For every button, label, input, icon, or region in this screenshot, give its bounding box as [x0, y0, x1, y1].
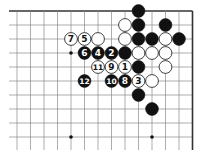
- black-stone-move-8: 8: [119, 75, 132, 88]
- move-number: 6: [81, 48, 87, 58]
- black-stone-move-6: 6: [78, 47, 91, 60]
- black-stone-move-10: 10: [105, 75, 118, 88]
- white-stone-move-5: 5: [78, 33, 91, 46]
- move-number: 7: [68, 34, 74, 44]
- go-board-diagram: 756421191121083: [0, 0, 198, 153]
- move-number: 12: [79, 77, 89, 86]
- black-stone: [132, 33, 145, 46]
- white-stone-move-9: 9: [105, 61, 118, 74]
- move-number: 1: [122, 62, 128, 72]
- move-number: 8: [122, 76, 128, 86]
- black-stone: [173, 33, 186, 46]
- white-stone: [159, 61, 172, 74]
- white-stone: [119, 33, 132, 46]
- black-stone-move-2: 2: [105, 47, 118, 60]
- black-stone-move-4: 4: [92, 47, 105, 60]
- black-stone-move-12: 12: [78, 75, 91, 88]
- white-stone: [159, 47, 172, 60]
- move-number: 2: [108, 48, 114, 58]
- black-stone: [159, 19, 172, 32]
- white-stone-move-7: 7: [65, 33, 78, 46]
- black-stone: [132, 89, 145, 102]
- move-number: 3: [135, 76, 141, 86]
- board-grid: [9, 11, 193, 150]
- star-point: [69, 51, 73, 55]
- white-stone: [146, 75, 159, 88]
- black-stone: [146, 33, 159, 46]
- move-number: 11: [93, 63, 103, 72]
- white-stone-move-1: 1: [119, 61, 132, 74]
- white-stone: [146, 47, 159, 60]
- white-stone: [119, 19, 132, 32]
- black-stone: [119, 47, 132, 60]
- white-stone: [92, 33, 105, 46]
- white-stone-move-11: 11: [92, 61, 105, 74]
- move-number: 5: [81, 34, 87, 44]
- star-point: [150, 135, 154, 139]
- black-stone: [132, 61, 145, 74]
- move-number: 4: [95, 48, 101, 58]
- black-stone: [132, 5, 145, 18]
- move-number: 9: [108, 62, 114, 72]
- white-stone: [159, 33, 172, 46]
- black-stone: [132, 19, 145, 32]
- white-stone-move-3: 3: [132, 75, 145, 88]
- black-stone: [146, 103, 159, 116]
- move-number: 10: [106, 77, 116, 86]
- star-point: [69, 135, 73, 139]
- white-stone: [132, 47, 145, 60]
